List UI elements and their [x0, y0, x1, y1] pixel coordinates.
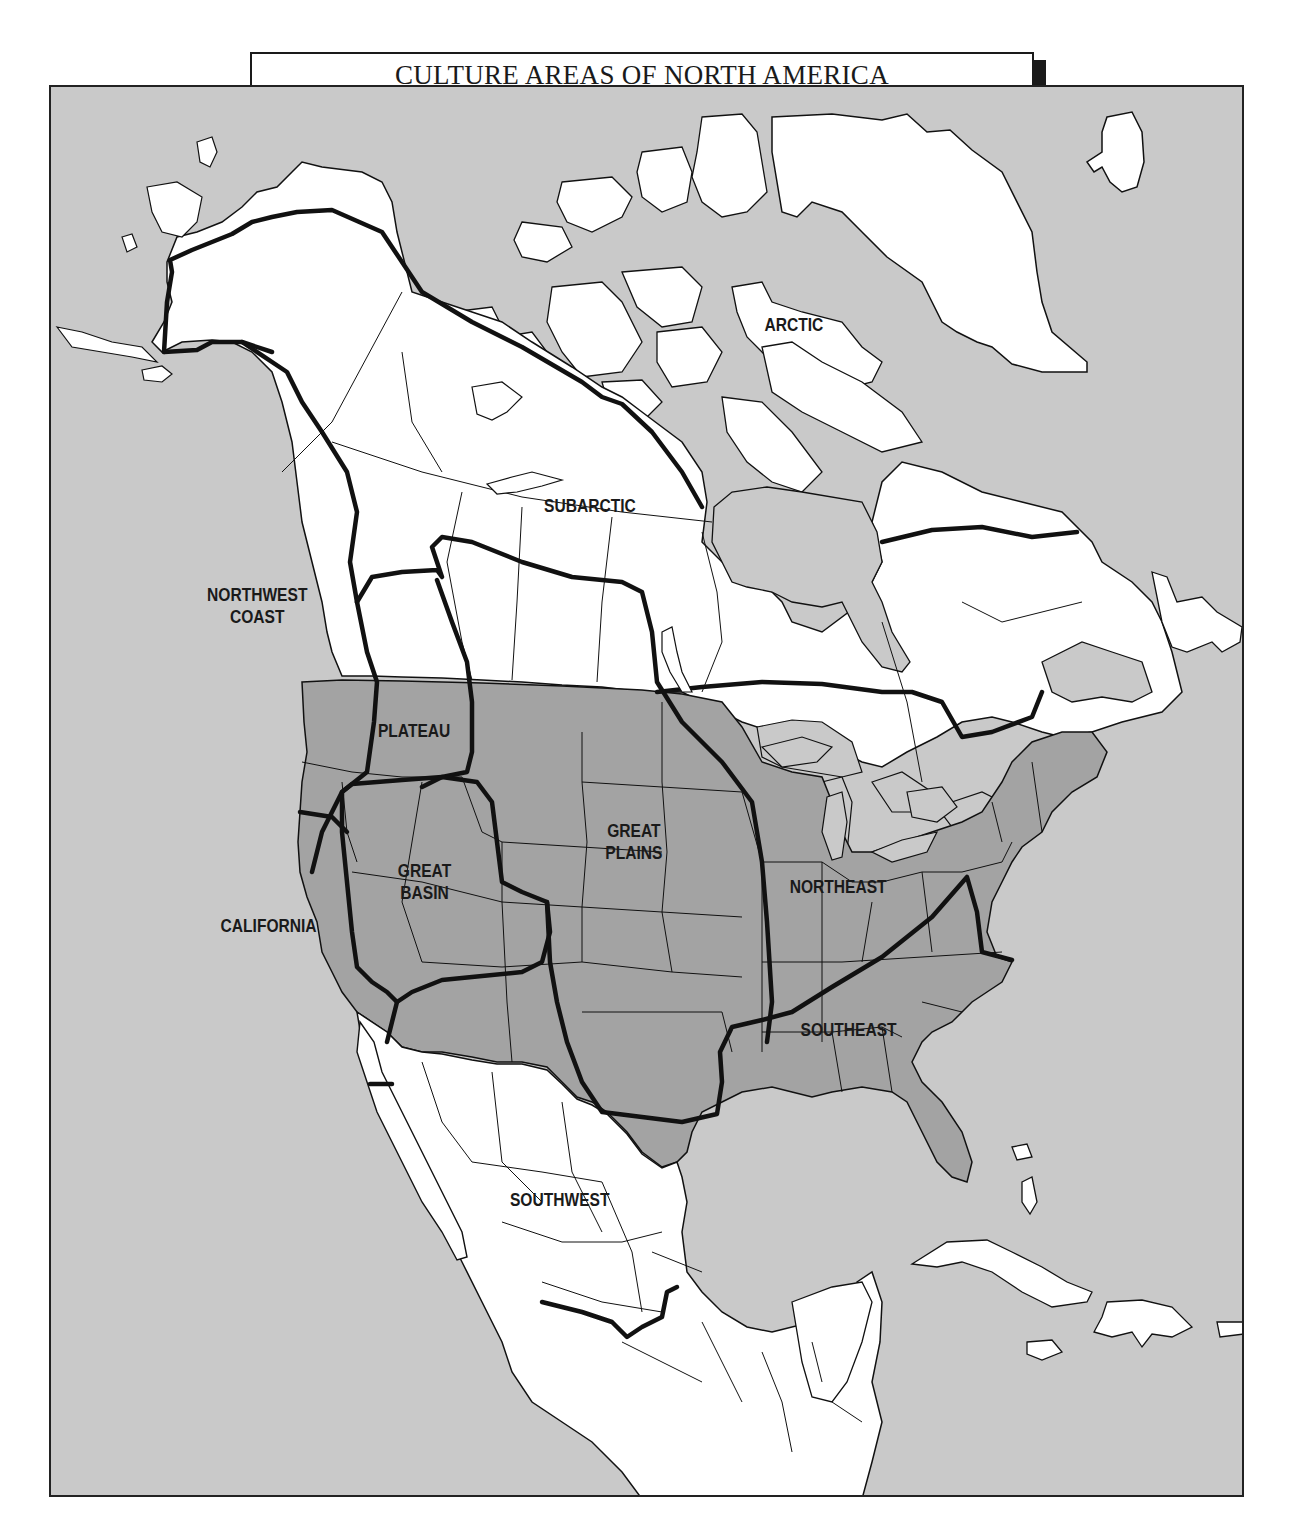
label-great-plains-line2: PLAINS [605, 842, 662, 864]
label-northeast: NORTHEAST [790, 876, 887, 898]
north-america-map [51, 87, 1244, 1497]
label-northwest-coast-line1: NORTHWEST [207, 584, 307, 606]
map-frame: ARCTIC SUBARCTIC NORTHWEST COAST PLATEAU… [49, 85, 1244, 1497]
label-northwest-coast: NORTHWEST COAST [207, 584, 307, 628]
label-california: CALIFORNIA [221, 915, 317, 937]
label-great-plains-line1: GREAT [605, 820, 662, 842]
label-great-basin-line2: BASIN [398, 882, 451, 904]
label-northwest-coast-line2: COAST [207, 606, 307, 628]
label-subarctic: SUBARCTIC [544, 495, 636, 517]
label-great-plains: GREAT PLAINS [605, 820, 662, 864]
label-southwest: SOUTHWEST [510, 1189, 610, 1211]
label-southeast: SOUTHEAST [801, 1019, 897, 1041]
label-plateau: PLATEAU [378, 720, 450, 742]
label-arctic: ARCTIC [764, 314, 823, 336]
puerto-rico [1217, 1322, 1244, 1337]
label-great-basin-line1: GREAT [398, 860, 451, 882]
label-great-basin: GREAT BASIN [398, 860, 451, 904]
